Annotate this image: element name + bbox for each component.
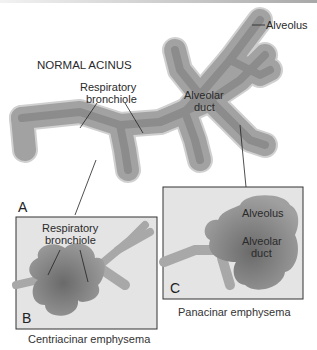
label-b-respiratory-1: Respiratory bbox=[42, 222, 98, 234]
label-b-respiratory-2: bronchiole bbox=[45, 234, 96, 246]
panel-letter-a: A bbox=[18, 199, 27, 215]
label-respiratory-bronchiole-2: bronchiole bbox=[86, 93, 137, 105]
panel-letter-c: C bbox=[170, 280, 180, 296]
label-alveolar-duct-2: duct bbox=[194, 101, 215, 113]
label-respiratory-bronchiole-1: Respiratory bbox=[80, 81, 136, 93]
normal-acinus-tree bbox=[22, 20, 270, 170]
label-c-alveolus: Alveolus bbox=[242, 207, 284, 219]
panel-letter-b: B bbox=[22, 310, 31, 326]
caption-panacinar: Panacinar emphysema bbox=[178, 306, 291, 318]
title-normal-acinus: NORMAL ACINUS bbox=[37, 59, 132, 71]
label-alveolar-duct-1: Alveolar bbox=[184, 89, 224, 101]
label-c-alveolar-duct-1: Alveolar bbox=[242, 235, 282, 247]
label-c-alveolar-duct-2: duct bbox=[251, 247, 272, 259]
caption-centriacinar: Centriacinar emphysema bbox=[28, 333, 150, 345]
label-alveolus: Alveolus bbox=[266, 19, 308, 31]
acinus-illustration bbox=[0, 0, 317, 350]
